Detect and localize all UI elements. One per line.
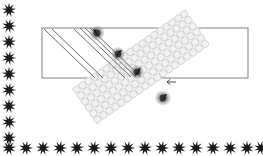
star-glyph-bottom-5	[87, 141, 101, 155]
star-glyph-bottom-3	[53, 141, 67, 155]
star-glyph-bottom-14	[240, 141, 254, 155]
star-glyph-bottom-13	[223, 141, 237, 155]
star-glyph-bottom-11	[189, 141, 203, 155]
star-glyph-bottom-2	[36, 141, 50, 155]
star-glyph-left-0	[2, 3, 16, 17]
figure-canvas	[0, 0, 263, 156]
star-glyph-bottom-10	[172, 141, 186, 155]
star-glyph-left-7	[2, 115, 16, 129]
star-glyph-bottom-7	[121, 141, 135, 155]
star-glyph-bottom-15	[254, 141, 263, 155]
star-glyph-left-6	[2, 99, 16, 113]
star-glyph-left-1	[2, 19, 16, 33]
node-marker-4	[155, 91, 171, 106]
node-marker-2	[111, 47, 125, 61]
node-marker-1	[90, 26, 105, 41]
star-glyph-bottom-6	[104, 141, 118, 155]
technical-diagram-svg	[0, 0, 263, 156]
node-marker-3	[130, 65, 144, 79]
star-glyph-left-4	[2, 67, 16, 81]
star-glyph-bottom-9	[155, 141, 169, 155]
star-glyph-bottom-4	[70, 141, 84, 155]
star-glyph-left-5	[2, 83, 16, 97]
star-glyph-bottom-12	[206, 141, 220, 155]
left-pointing-callout-arrow	[167, 79, 176, 84]
star-glyph-left-2	[2, 35, 16, 49]
guide-line-0	[44, 29, 95, 78]
star-glyph-bottom-0	[2, 141, 16, 155]
star-glyph-bottom-1	[19, 141, 33, 155]
star-glyph-left-3	[2, 51, 16, 65]
star-glyph-bottom-8	[138, 141, 152, 155]
